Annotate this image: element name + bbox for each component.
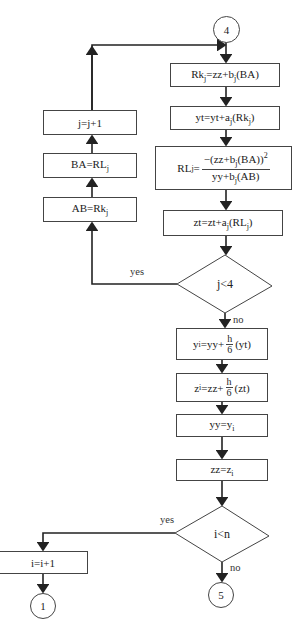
- h-over-6-fraction: h6: [226, 377, 233, 398]
- decision-j-label: j<4: [217, 277, 233, 292]
- connector-5-label: 5: [218, 589, 224, 601]
- step-ba-formula: BA=RLj: [71, 158, 109, 173]
- step-i-increment-formula: i=i+1: [31, 557, 55, 569]
- flow-connectors: [0, 0, 299, 631]
- rl-fraction: −(zz+bj(BA))2 yy+bj(AB): [202, 151, 270, 185]
- step-j-increment-formula: j=j+1: [78, 117, 102, 129]
- decision-i-no-label: no: [230, 562, 241, 573]
- step-zi-formula: zi=zz+ h6 (zt): [194, 377, 250, 398]
- step-yi: yi=yy+ h6 (yt): [176, 328, 268, 360]
- h-over-6-fraction: h6: [226, 334, 233, 355]
- step-yi-formula: yi=yy+ h6 (yt): [193, 334, 251, 355]
- step-zt: zt=zt+aj(RLj): [163, 210, 283, 236]
- step-yy-formula: yy=yi: [210, 418, 235, 433]
- connector-4: 4: [213, 16, 240, 43]
- step-ba: BA=RLj: [43, 153, 137, 178]
- step-rl-formula: RLj= −(zz+bj(BA))2 yy+bj(AB): [177, 151, 269, 185]
- step-ab: AB=Rkj: [43, 197, 137, 222]
- step-yt-formula: yt=yt+aj(Rkj): [195, 111, 254, 126]
- step-yy: yy=yi: [176, 414, 268, 437]
- connector-5: 5: [208, 582, 234, 608]
- step-j-increment: j=j+1: [43, 110, 137, 135]
- step-zi: zi=zz+ h6 (zt): [176, 373, 268, 402]
- connector-4-label: 4: [224, 24, 230, 36]
- step-zt-formula: zt=zt+aj(RLj): [193, 216, 252, 231]
- step-zz-formula: zz=zi: [210, 463, 233, 478]
- step-i-increment: i=i+1: [0, 551, 88, 574]
- connector-1: 1: [30, 593, 56, 619]
- decision-j-yes-label: yes: [130, 266, 144, 277]
- step-rk: Rkj=zz+bj(BA): [170, 63, 280, 87]
- decision-i-label: i<n: [214, 527, 230, 542]
- decision-i-yes-label: yes: [160, 514, 174, 525]
- step-zz: zz=zi: [176, 459, 268, 481]
- step-ab-formula: AB=Rkj: [72, 202, 109, 217]
- decision-j-no-label: no: [233, 314, 244, 325]
- step-rk-formula: Rkj=zz+bj(BA): [191, 68, 259, 83]
- step-yt: yt=yt+aj(Rkj): [170, 106, 280, 130]
- step-rl: RLj= −(zz+bj(BA))2 yy+bj(AB): [155, 146, 292, 190]
- connector-1-label: 1: [40, 600, 46, 612]
